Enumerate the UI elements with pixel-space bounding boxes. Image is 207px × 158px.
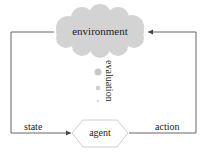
evaluation-label: evaluation — [104, 60, 115, 102]
evaluation-dot-small — [97, 100, 99, 102]
evaluation-dot-medium — [96, 86, 101, 91]
diagram-canvas: environment agent state action evaluatio… — [0, 0, 207, 158]
agent-label: agent — [72, 127, 128, 139]
environment-label: environment — [52, 25, 148, 38]
evaluation-dot-large — [95, 69, 102, 76]
action-label: action — [155, 121, 179, 133]
action-edge — [129, 32, 196, 133]
state-label: state — [24, 121, 42, 133]
evaluation-dots — [95, 69, 102, 103]
